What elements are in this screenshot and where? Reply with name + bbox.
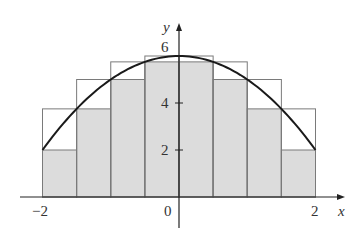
lower-sum-rect [145, 62, 179, 197]
riemann-sum-chart: y x 6 4 2 −2 0 2 [0, 0, 353, 240]
x-tick-label-2: 2 [311, 203, 319, 219]
x-axis-label: x [337, 203, 345, 219]
lower-sum-rect [179, 62, 213, 197]
y-axis-label: y [161, 19, 170, 35]
lower-sum-rect [281, 150, 315, 197]
y-tick-label-2: 2 [161, 142, 169, 158]
x-tick-label-neg2: −2 [32, 203, 48, 219]
lower-sum-rect [247, 109, 281, 197]
x-axis-arrow-icon [337, 194, 345, 200]
y-axis-arrow-icon [176, 23, 182, 31]
lower-sum-rect [111, 80, 145, 198]
lower-sum-rect [43, 150, 77, 197]
y-tick-label-4: 4 [161, 95, 169, 111]
y-tick-label-6: 6 [161, 39, 169, 55]
lower-sum-rect [77, 109, 111, 197]
lower-sum-rect [213, 80, 247, 198]
x-tick-label-0: 0 [164, 203, 172, 219]
